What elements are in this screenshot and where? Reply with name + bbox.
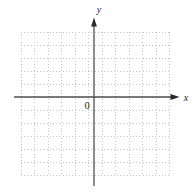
coordinate-plane-figure: x y 0 — [0, 0, 194, 194]
x-axis-label: x — [183, 92, 189, 103]
grid — [21, 32, 170, 175]
coordinate-plane: x y 0 — [0, 0, 194, 194]
y-axis-arrowhead-icon — [91, 18, 97, 27]
x-axis-arrowhead-icon — [171, 94, 180, 100]
y-axis-label: y — [96, 4, 102, 15]
origin-label: 0 — [84, 100, 89, 111]
